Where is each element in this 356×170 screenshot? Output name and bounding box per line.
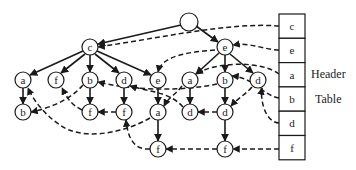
table-item-label: f [290,142,294,154]
tree-node-c: c [82,39,98,55]
edge-c-a [30,51,83,75]
tree-node-f: f [150,141,166,157]
node-label: f [156,143,160,155]
node-label: f [223,143,227,155]
diagram-canvas: ceafbdeabdbffaddff ceabdf Header Table [0,0,356,170]
node-label: a [21,74,26,86]
table-item-label: d [289,117,295,129]
tree-node-d: d [217,104,233,120]
root-node [180,13,198,31]
node-label: c [88,41,93,53]
node-label: f [122,106,126,118]
tree-node-f: f [116,104,132,120]
fp-tree-diagram: ceafbdeabdbffaddff ceabdf Header Table [0,0,356,170]
table-item-label: b [289,93,295,105]
node-label: e [156,74,161,86]
node-label: f [54,74,58,86]
link-f4-to-f3 [126,120,150,149]
node-label: d [187,106,193,118]
tree-node-d: d [116,72,132,88]
tree-node-a: a [182,72,198,88]
header-table-row-e: e [279,38,305,62]
edge-e-d [230,54,253,73]
tree-node-a: a [15,72,31,88]
tree-node-f: f [82,104,98,120]
table-item-label: a [290,69,295,81]
node-label: a [156,106,161,118]
link-f2-to-f1 [62,88,82,110]
header-table-row-b: b [279,87,305,111]
node-label: d [121,74,127,86]
tree-node-b: b [217,72,233,88]
link-a-header-to-a2 [196,64,279,74]
node-label: f [88,106,92,118]
node-label: d [222,106,228,118]
node-label: a [188,74,193,86]
node-label: b [20,106,26,118]
header-table-row-c: c [279,14,305,38]
node-label: b [87,74,93,86]
tree-node-f: f [48,72,64,88]
tree-node-d: d [250,72,266,88]
header-table: ceabdf [279,14,305,160]
link-b1-to-b3 [31,85,83,112]
header-table-row-d: d [279,111,305,135]
link-d-header-to-d2 [262,88,279,123]
tree-node-d: d [182,104,198,120]
link-d2-to-d4 [231,87,252,106]
table-label: Table [315,92,341,106]
link-e-header-to-e1 [233,44,279,50]
edge-root-c [98,25,181,44]
tree-node-f: f [217,141,233,157]
header-table-row-a: a [279,63,305,87]
edge-c-d [95,54,119,73]
header-table-row-f: f [279,136,305,160]
edge-e-a [196,53,219,74]
table-item-label: c [290,20,295,32]
edge-c-f [61,54,85,73]
node-label: e [223,41,228,53]
table-item-label: e [290,44,295,56]
tree-node-e: e [217,39,233,55]
tree-node-a: a [150,104,166,120]
tree-node-b: b [15,104,31,120]
tree-node-b: b [82,72,98,88]
header-label: Header [311,67,346,81]
tree-node-e: e [150,72,166,88]
node-label: b [222,74,228,86]
node-label: d [255,74,261,86]
